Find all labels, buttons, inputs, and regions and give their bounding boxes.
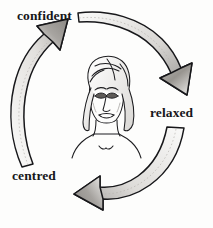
nose [103, 97, 110, 112]
eye-right [106, 93, 118, 98]
womans-face-illustration [72, 56, 141, 158]
shoulders-outline [72, 134, 141, 158]
arrow-relaxed-to-centred [74, 127, 184, 210]
cheek-shade-right [117, 103, 120, 112]
arrow-centred-to-confident [11, 19, 68, 167]
hair-left-mass [83, 88, 94, 131]
cycle-label-centred: centred [12, 169, 56, 183]
eye-left [95, 93, 107, 98]
arrow-head-bottom [74, 176, 103, 210]
mouth-lower-lip [99, 115, 114, 118]
cheek-shade-left [93, 103, 96, 112]
cycle-label-relaxed: relaxed [150, 106, 193, 120]
mouth-upper-lip [99, 114, 114, 116]
confidence-cycle-diagram: confident relaxed centred [0, 0, 213, 228]
cycle-label-confident: confident [17, 9, 72, 23]
collarbone-left [99, 146, 106, 149]
collarbone-right [106, 146, 113, 149]
